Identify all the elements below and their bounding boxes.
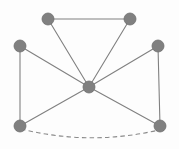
node-center[interactable] bbox=[83, 81, 95, 93]
node-bottom-right[interactable] bbox=[154, 120, 166, 132]
edge-mid-left-to-center bbox=[20, 46, 89, 87]
graph-figure bbox=[0, 0, 179, 149]
node-mid-left[interactable] bbox=[14, 40, 26, 52]
node-bottom-left[interactable] bbox=[14, 120, 26, 132]
node-top-right[interactable] bbox=[124, 13, 136, 25]
edge-mid-right-to-bottom-right bbox=[158, 46, 160, 126]
edge-mid-right-to-center bbox=[89, 46, 158, 87]
edge-layer bbox=[20, 19, 160, 138]
node-mid-right[interactable] bbox=[152, 40, 164, 52]
node-top-left[interactable] bbox=[42, 13, 54, 25]
edge-bottom-right-to-center bbox=[89, 87, 160, 126]
node-layer bbox=[14, 13, 166, 132]
edge-bottom-left-to-center bbox=[20, 87, 89, 126]
dashed-edge-bottom-left-to-bottom-right bbox=[21, 129, 159, 138]
graph-canvas bbox=[0, 0, 179, 149]
edge-top-left-to-center bbox=[48, 19, 89, 87]
edge-top-right-to-center bbox=[89, 19, 130, 87]
